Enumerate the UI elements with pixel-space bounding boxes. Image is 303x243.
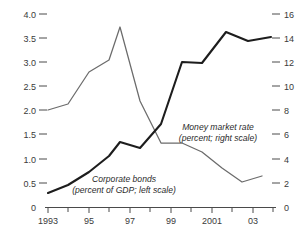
left-axis-label-0: 0 bbox=[31, 203, 36, 213]
annotation-corporate-bonds-line1: Corporate bonds bbox=[92, 174, 157, 184]
series-corporate-bonds bbox=[48, 32, 271, 193]
annotation-money-market-rate-line1: Money market rate bbox=[182, 122, 254, 132]
right-axis-label-6: 6 bbox=[284, 130, 289, 140]
left-axis-label-2_5: 2.5 bbox=[23, 82, 36, 92]
right-axis-label-8: 8 bbox=[284, 106, 289, 116]
left-axis-label-0_5: 0.5 bbox=[23, 179, 36, 189]
right-axis-label-2: 2 bbox=[284, 179, 289, 189]
x-axis-label-99: 99 bbox=[166, 216, 176, 226]
x-axis-label-95: 95 bbox=[84, 216, 94, 226]
left-axis-label-1_0: 1.0 bbox=[23, 155, 36, 165]
left-axis-ticks bbox=[39, 14, 47, 183]
right-axis-label-0: 0 bbox=[284, 203, 289, 213]
chart-container: 4.0 3.5 3.0 2.5 2.0 1.5 1.0 0.5 0 16 14 … bbox=[0, 0, 303, 243]
annotation-corporate-bonds: Corporate bonds (percent of GDP; left sc… bbox=[72, 174, 176, 195]
left-axis-label-4_0: 4.0 bbox=[23, 10, 36, 20]
right-axis-label-12: 12 bbox=[284, 58, 294, 68]
annotation-money-market-rate: Money market rate (percent; right scale) bbox=[179, 122, 257, 143]
left-axis-labels: 4.0 3.5 3.0 2.5 2.0 1.5 1.0 0.5 0 bbox=[23, 10, 36, 213]
left-axis-label-3_5: 3.5 bbox=[23, 34, 36, 44]
right-axis-label-4: 4 bbox=[284, 155, 289, 165]
x-axis-label-1993: 1993 bbox=[38, 216, 58, 226]
left-axis-label-2_0: 2.0 bbox=[23, 106, 36, 116]
x-axis-label-03: 03 bbox=[248, 216, 258, 226]
series-money-market-rate bbox=[48, 27, 262, 182]
x-axis-labels: 1993 95 97 99 2001 03 bbox=[38, 216, 258, 226]
x-axis-label-2001: 2001 bbox=[202, 216, 222, 226]
annotation-corporate-bonds-line2: (percent of GDP; left scale) bbox=[72, 185, 176, 195]
right-axis-labels: 16 14 12 10 8 6 4 2 0 bbox=[284, 10, 294, 213]
right-axis-label-10: 10 bbox=[284, 82, 294, 92]
right-axis-label-16: 16 bbox=[284, 10, 294, 20]
right-axis-ticks bbox=[272, 14, 280, 183]
right-axis-label-14: 14 bbox=[284, 34, 294, 44]
line-chart: 4.0 3.5 3.0 2.5 2.0 1.5 1.0 0.5 0 16 14 … bbox=[0, 0, 303, 243]
left-axis-label-1_5: 1.5 bbox=[23, 130, 36, 140]
x-axis-label-97: 97 bbox=[125, 216, 135, 226]
annotation-money-market-rate-line2: (percent; right scale) bbox=[179, 133, 257, 143]
left-axis-label-3_0: 3.0 bbox=[23, 58, 36, 68]
